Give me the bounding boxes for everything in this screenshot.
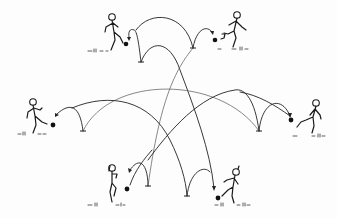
ball [289, 118, 294, 123]
player-bottom-left [88, 165, 129, 206]
arrowhead-icon [212, 186, 216, 191]
trajectory-ml-rebound [57, 107, 83, 131]
trajectory-tl-to-br [141, 46, 214, 188]
trajectory-tl-to-tr [136, 17, 193, 48]
arrowhead-icon [127, 37, 131, 41]
player-middle-right [289, 100, 325, 137]
player-bottom-right [215, 166, 250, 206]
trajectory-br-rebound [187, 169, 210, 196]
trajectory-tr-to-bl [148, 48, 193, 186]
illustration-canvas [0, 0, 337, 218]
ball [125, 187, 130, 192]
trajectory-tr-rebound [193, 29, 212, 48]
ball [124, 42, 129, 47]
player-middle-left [18, 99, 55, 135]
trajectory-ml-to-br [72, 100, 187, 196]
juggling-drill-illustration [0, 0, 337, 218]
trajectory-mr-incoming [148, 90, 259, 160]
trajectory-tl-rebound [129, 29, 141, 62]
ball [51, 123, 56, 128]
ball-trajectories [57, 17, 290, 196]
arrowheads [55, 31, 292, 191]
ball [216, 196, 221, 201]
arrowhead-icon [210, 31, 214, 35]
player-top-right [213, 12, 248, 50]
trajectory-mr-rebound [259, 103, 290, 131]
ball [213, 38, 218, 43]
player-top-left [88, 14, 128, 52]
trajectory-ml-to-mr [83, 89, 259, 131]
